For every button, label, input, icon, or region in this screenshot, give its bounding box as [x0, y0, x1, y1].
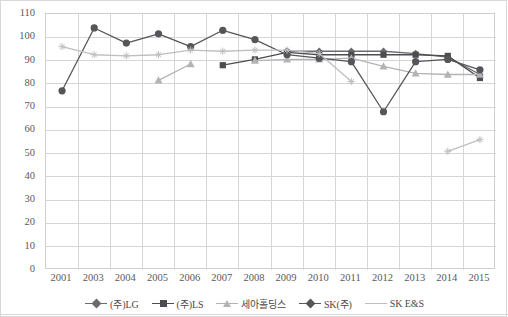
y-axis-tick-label: 90 [25, 54, 36, 65]
x-axis-tick-label: 2013 [404, 273, 425, 284]
data-point-marker [380, 52, 386, 58]
legend-label: 세아홀딩스 [241, 296, 286, 311]
series-layer [46, 14, 496, 270]
series-line [448, 140, 480, 152]
data-point-marker [476, 66, 483, 73]
legend-label: (주)LS [177, 296, 204, 311]
x-axis-tick-label: 2010 [308, 273, 329, 284]
series-SK(주) [58, 24, 483, 115]
data-point-marker [123, 52, 130, 59]
x-axis-tick-label: 2011 [340, 273, 361, 284]
y-axis-tick-label: 70 [25, 101, 36, 112]
legend-item-0[interactable]: (주)LG [85, 296, 139, 311]
x-axis-tick-label: 2004 [115, 273, 136, 284]
y-axis: 0102030405060708090100110 [1, 1, 41, 269]
x-axis-tick-label: 2001 [51, 273, 72, 284]
y-axis-tick-label: 110 [20, 8, 35, 19]
legend-label: (주)LG [110, 296, 139, 311]
x-axis-tick-label: 2007 [211, 273, 232, 284]
data-point-marker [380, 108, 387, 115]
data-point-marker [251, 46, 258, 53]
data-point-marker [123, 39, 130, 46]
y-axis-tick-label: 80 [25, 78, 36, 89]
data-point-marker [187, 60, 195, 67]
data-point-marker [251, 36, 258, 43]
legend-marker-icon [152, 298, 174, 309]
legend-item-1[interactable]: (주)LS [152, 296, 204, 311]
legend-item-3[interactable]: SK(주) [299, 296, 352, 311]
data-point-marker [187, 46, 194, 53]
y-axis-tick-label: 50 [25, 147, 36, 158]
data-point-marker [91, 24, 98, 31]
series-line [62, 47, 351, 82]
x-axis: 2001200320042005200620072008200920102011… [45, 271, 495, 289]
y-axis-tick-label: 100 [19, 31, 35, 42]
x-axis-tick-label: 2012 [372, 273, 393, 284]
legend-marker-icon [85, 298, 107, 309]
y-axis-tick-label: 30 [25, 194, 36, 205]
legend-marker-icon [299, 298, 321, 309]
data-point-marker [220, 62, 226, 68]
chart-legend: (주)LG(주)LS세아홀딩스SK(주)SK E&S [1, 292, 508, 314]
data-point-marker [58, 43, 65, 50]
legend-divider [1, 314, 508, 315]
legend-item-4[interactable]: SK E&S [365, 298, 424, 309]
legend-item-2[interactable]: 세아홀딩스 [216, 296, 286, 311]
legend-label: SK E&S [390, 298, 424, 309]
data-point-marker [155, 51, 162, 58]
data-point-marker [444, 148, 451, 155]
y-axis-tick-label: 20 [25, 217, 36, 228]
x-axis-tick-label: 2003 [83, 273, 104, 284]
y-axis-tick-label: 0 [30, 264, 35, 275]
data-point-marker [155, 76, 163, 83]
data-point-marker [58, 87, 65, 94]
data-point-marker [412, 58, 419, 65]
y-axis-tick-label: 60 [25, 124, 36, 135]
y-axis-tick-label: 40 [25, 171, 36, 182]
data-point-marker [348, 58, 355, 65]
x-axis-tick-label: 2008 [243, 273, 264, 284]
x-axis-tick-label: 2009 [276, 273, 297, 284]
series-line [159, 64, 191, 80]
data-point-marker [283, 46, 290, 53]
data-point-marker [219, 27, 226, 34]
data-point-marker [444, 56, 451, 63]
x-axis-tick-label: 2015 [468, 273, 489, 284]
data-point-marker [91, 51, 98, 58]
legend-marker-icon [216, 298, 238, 309]
legend-marker-icon [365, 298, 387, 309]
data-point-marker [413, 52, 419, 58]
data-point-marker [219, 48, 226, 55]
legend-label: SK(주) [324, 296, 352, 311]
x-axis-tick-label: 2014 [436, 273, 457, 284]
x-axis-tick-label: 2006 [179, 273, 200, 284]
data-point-marker [348, 78, 355, 85]
data-point-marker [155, 30, 162, 37]
plot-area [45, 13, 495, 269]
y-axis-tick-label: 10 [25, 240, 36, 251]
data-point-marker [476, 136, 483, 143]
x-axis-tick-label: 2005 [147, 273, 168, 284]
